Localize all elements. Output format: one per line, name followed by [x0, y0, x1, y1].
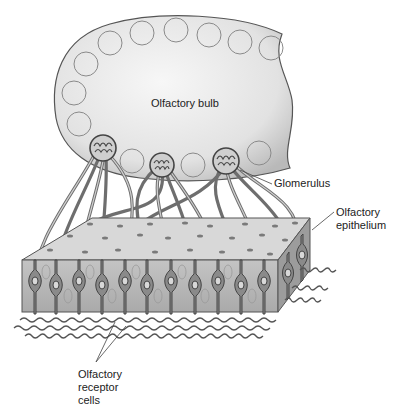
- label-glomerulus: Glomerulus: [274, 177, 330, 190]
- label-receptor-line1: Olfactory: [78, 368, 122, 381]
- label-olfactory-epithelium: Olfactory epithelium: [336, 206, 386, 232]
- label-receptor-line2: receptor: [78, 381, 122, 394]
- glomerulus-2: [150, 153, 174, 177]
- label-olfactory-receptor-cells: Olfactory receptor cells: [78, 368, 122, 407]
- label-epithelium-line2: epithelium: [336, 219, 386, 232]
- glomerulus-1: [90, 135, 116, 161]
- label-epithelium-line1: Olfactory: [336, 206, 386, 219]
- label-receptor-line3: cells: [78, 394, 122, 407]
- glomerulus-3: [213, 148, 239, 174]
- label-olfactory-bulb: Olfactory bulb: [151, 97, 219, 110]
